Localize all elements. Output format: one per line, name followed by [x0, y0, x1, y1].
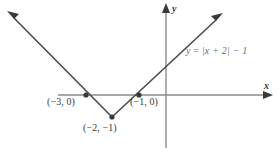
point-label-x-intercept-left: (−3, 0) — [47, 96, 75, 107]
absolute-value-curve — [7, 11, 223, 117]
equation-rhs: |x + 2| − 1 — [202, 45, 248, 56]
point-marker-vertex — [109, 114, 114, 119]
point-label-x-intercept-right: (−1, 0) — [130, 96, 158, 107]
x-axis-label: x — [264, 80, 269, 91]
equation-label: y = |x + 2| − 1 — [186, 45, 248, 56]
y-axis — [162, 3, 170, 148]
y-axis-label: y — [172, 3, 176, 14]
point-marker-x-intercept-left — [83, 92, 88, 97]
equation-operator: = — [191, 45, 202, 56]
plot-canvas — [0, 0, 279, 156]
point-label-vertex: (−2, −1) — [83, 122, 117, 133]
graph-figure: (−3, 0) (−1, 0) (−2, −1) y x y = |x + 2|… — [0, 0, 279, 156]
